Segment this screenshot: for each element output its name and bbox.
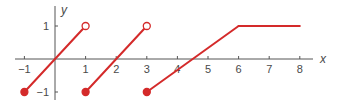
- y-axis-label: y: [60, 3, 68, 17]
- x-tick-label: 5: [205, 63, 211, 75]
- x-tick-label: 1: [83, 63, 89, 75]
- closed-endpoint: [82, 89, 89, 96]
- closed-endpoint: [143, 89, 150, 96]
- x-tick-label: −1: [18, 63, 31, 75]
- y-tick-label: 1: [43, 20, 49, 32]
- x-tick-label: 7: [266, 63, 272, 75]
- x-tick-label: 3: [144, 63, 150, 75]
- x-axis-label: x: [319, 52, 327, 66]
- open-endpoint: [143, 23, 150, 30]
- y-tick-label: −1: [36, 86, 49, 98]
- closed-endpoint: [21, 89, 28, 96]
- open-endpoint: [82, 23, 89, 30]
- piecewise-function-chart: −1123456781−1 x y: [0, 0, 339, 101]
- x-tick-label: 8: [297, 63, 303, 75]
- x-tick-label: 6: [236, 63, 242, 75]
- x-tick-label: 2: [113, 63, 119, 75]
